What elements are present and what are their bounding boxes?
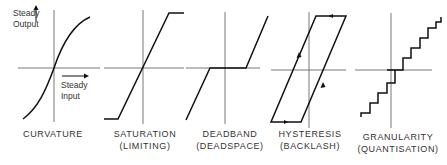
y-axis-label-line1: Steady [13,8,39,19]
panel-label-deadband: DEADBAND (DEADSPACE) [190,128,270,152]
right-arrowhead-icon [84,74,89,79]
panel-title: HYSTERESIS [270,128,350,140]
panel-title: DEADBAND [190,128,270,140]
y-axis-label: Steady Output [13,8,39,30]
y-axis-label-line2: Output [13,19,39,30]
x-axis-label-line2: Input [61,91,87,102]
x-axis-label: Steady Input [61,80,87,102]
arrow-right-icon [284,120,288,124]
panel-label-curvature: CURVATURE [18,128,88,140]
panel-label-saturation: SATURATION (LIMITING) [105,128,185,152]
panel-deadband [186,12,268,124]
arrow-left-icon [329,14,333,18]
panel-title: GRANULARITY [352,131,444,143]
panel-granularity [355,13,441,128]
x-axis-label-line1: Steady [61,80,87,91]
panel-subtitle: (DEADSPACE) [190,140,270,152]
panel-subtitle: (BACKLASH) [270,140,350,152]
panel-subtitle: (LIMITING) [105,140,185,152]
panel-subtitle: (QUANTISATION) [352,143,444,155]
granularity-steps [361,17,441,117]
panel-title: SATURATION [105,128,185,140]
hysteresis-loop [271,16,346,122]
panel-hysteresis [271,12,346,128]
panel-label-hysteresis: HYSTERESIS (BACKLASH) [270,128,350,152]
panel-label-granularity: GRANULARITY (QUANTISATION) [352,131,444,155]
panel-saturation [104,10,184,124]
panel-title: CURVATURE [18,128,88,140]
arrow-up-right-icon [321,82,326,88]
saturation-curve [104,13,184,119]
